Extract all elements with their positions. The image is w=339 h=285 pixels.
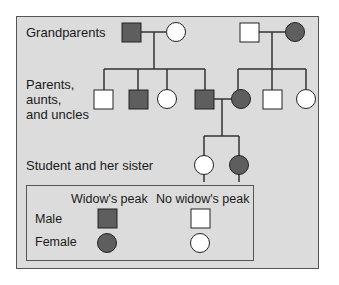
generation-label-grandparents: Grandparents [26, 25, 106, 40]
generation-label-parents-2: aunts, [26, 92, 61, 107]
legend-header-widows-peak: Widow's peak [71, 192, 148, 206]
generation-label-children: Student and her sister [26, 158, 153, 173]
legend-row-female: Female [35, 235, 77, 249]
legend-row-male: Male [35, 212, 62, 226]
grandmother-right-affected-female [286, 23, 305, 42]
sister-affected-female [230, 156, 249, 175]
grandfather-right-unaffected-male [240, 23, 259, 42]
aunt-1-unaffected-female [158, 90, 177, 109]
uncle-3-unaffected-male [263, 90, 282, 109]
uncle-2-affected-male [129, 90, 148, 109]
grandfather-left-affected-male [122, 23, 141, 42]
mother-affected-female [232, 90, 251, 109]
uncle-1-unaffected-male [94, 90, 113, 109]
father-affected-male [195, 90, 214, 109]
generation-label-parents-3: and uncles [26, 107, 89, 122]
student-unaffected-female [195, 156, 214, 175]
aunt-2-unaffected-female [297, 90, 316, 109]
generation-label-parents-1: Parents, [26, 77, 74, 92]
grandmother-left-unaffected-female [167, 23, 186, 42]
legend-header-no-widows-peak: No widow's peak [156, 192, 249, 206]
